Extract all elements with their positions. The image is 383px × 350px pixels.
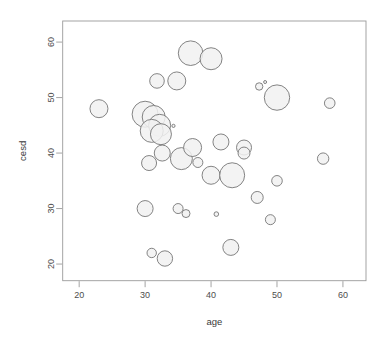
x-tick-label: 20 xyxy=(74,290,84,300)
bubble-point xyxy=(238,147,250,159)
bubble-point xyxy=(157,251,172,266)
bubble-point xyxy=(272,176,283,187)
bubble-point xyxy=(178,41,203,66)
bubble-point xyxy=(168,72,186,90)
bubble-point xyxy=(264,85,289,110)
bubble-point xyxy=(324,98,335,109)
bubble-point xyxy=(200,48,222,70)
bubble-point xyxy=(255,83,262,90)
bubble-point xyxy=(137,201,153,217)
bubble-point xyxy=(147,248,156,257)
bubble-point xyxy=(317,153,328,164)
y-tick-label: 60 xyxy=(46,37,56,47)
bubble-point xyxy=(154,145,170,161)
bubble-point xyxy=(193,158,203,168)
y-tick-label: 30 xyxy=(46,204,56,214)
bubble-point xyxy=(142,156,157,171)
bubble-point xyxy=(150,124,171,145)
bubble-point xyxy=(90,100,108,118)
bubble-point xyxy=(213,134,229,150)
x-tick-label: 60 xyxy=(338,290,348,300)
chart-canvas: 2030405060 2030405060 age cesd xyxy=(0,0,383,350)
bubble-point xyxy=(202,166,220,184)
y-tick-label: 50 xyxy=(46,93,56,103)
bubble-point xyxy=(182,210,190,218)
y-tick-label: 40 xyxy=(46,148,56,158)
x-tick-label: 40 xyxy=(206,290,216,300)
bubble-point xyxy=(265,215,275,225)
bubble-point xyxy=(220,163,245,188)
bubble-chart-figure: 2030405060 2030405060 age cesd xyxy=(0,0,383,350)
bubble-point xyxy=(264,81,267,84)
y-tick-label: 20 xyxy=(46,259,56,269)
x-axis-title: age xyxy=(206,316,222,327)
bubble-point xyxy=(173,204,183,214)
bubble-point xyxy=(251,191,263,203)
bubble-point xyxy=(172,124,175,127)
x-tick-label: 50 xyxy=(272,290,282,300)
bubble-point xyxy=(223,239,239,255)
bubble-point xyxy=(150,74,165,89)
bubble-point xyxy=(214,212,219,217)
bubble-point xyxy=(184,139,202,157)
y-axis-title: cesd xyxy=(18,141,29,161)
x-tick-label: 30 xyxy=(140,290,150,300)
